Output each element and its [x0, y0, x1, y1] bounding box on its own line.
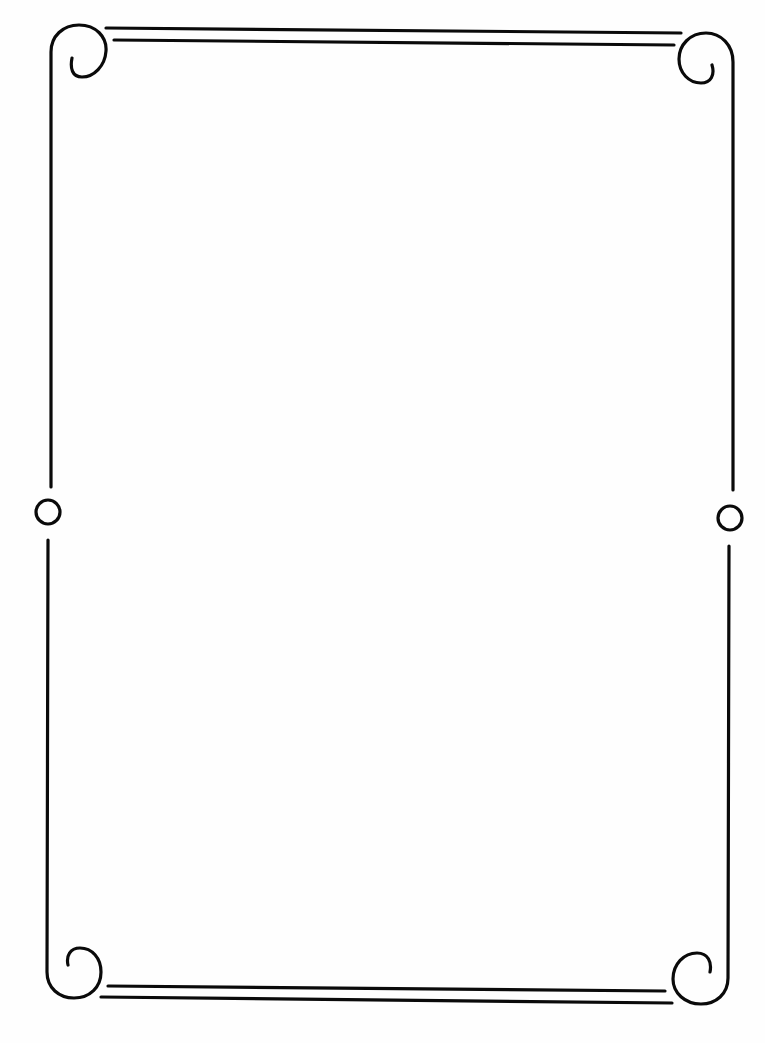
- right-side-circle-ornament: [718, 506, 742, 530]
- top-rule-inner: [114, 40, 674, 45]
- bottom-left-scroll-icon: [47, 540, 101, 998]
- bottom-right-scroll-icon: [673, 546, 729, 1004]
- top-rule-outer: [106, 28, 681, 33]
- bottom-rule-inner: [108, 986, 665, 991]
- bottom-rule-outer: [101, 997, 672, 1003]
- border-frame: [0, 0, 765, 1043]
- decorative-page-border: [0, 0, 765, 1043]
- top-right-scroll-icon: [679, 33, 733, 490]
- left-side-circle-ornament: [36, 500, 60, 524]
- top-left-scroll-icon: [51, 25, 106, 487]
